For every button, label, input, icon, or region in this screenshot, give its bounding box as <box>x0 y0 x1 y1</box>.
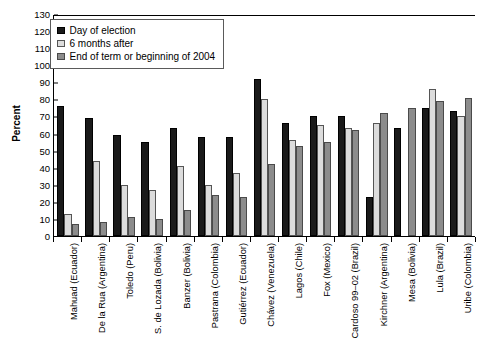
x-tick-mark <box>194 237 195 242</box>
x-tick-mark <box>362 237 363 242</box>
x-label-slot: Chávez (Venezuela) <box>250 243 278 361</box>
x-tick-label: Uribe (Colombia) <box>464 243 473 313</box>
x-label-slot: Cardoso 99–02 (Brazil) <box>334 243 362 361</box>
legend-item-end-of-term: End of term or beginning of 2004 <box>57 50 215 63</box>
bar <box>233 173 240 236</box>
bar-group <box>419 15 447 236</box>
bar <box>205 185 212 236</box>
x-tick-label: Mahuad (Ecuador) <box>70 243 79 320</box>
bar-group <box>222 15 250 236</box>
bar-group <box>279 15 307 236</box>
bar <box>261 99 268 236</box>
x-tick-mark <box>306 237 307 242</box>
bar <box>282 123 289 236</box>
y-tick-label: 130 <box>34 10 50 20</box>
x-tick-mark <box>334 237 335 242</box>
bar-group <box>250 15 278 236</box>
y-tick-label: 50 <box>39 147 50 157</box>
bar <box>128 217 135 236</box>
bar <box>177 166 184 236</box>
bar <box>121 185 128 236</box>
bar <box>317 125 324 236</box>
bar <box>100 222 107 236</box>
legend-label: Day of election <box>70 26 136 36</box>
x-tick-mark <box>250 237 251 242</box>
y-tick-label: 100 <box>34 61 50 71</box>
bar <box>408 108 415 236</box>
x-tick-label: Lula (Brazil) <box>436 243 445 293</box>
bar <box>465 98 472 236</box>
legend-swatch-icon <box>57 40 65 48</box>
legend-label: End of term or beginning of 2004 <box>70 52 216 62</box>
bar <box>352 130 359 236</box>
bar <box>226 137 233 236</box>
bar-group <box>391 15 419 236</box>
bar <box>429 89 436 236</box>
bar <box>156 219 163 236</box>
legend-item-day-of-election: Day of election <box>57 24 215 37</box>
y-tick-label: 0 <box>45 232 50 242</box>
x-tick-mark <box>419 237 420 242</box>
x-label-slot: Pastrana (Colombia) <box>194 243 222 361</box>
bar <box>296 146 303 237</box>
x-label-slot: Mahuad (Ecuador) <box>53 243 81 361</box>
legend-swatch-icon <box>57 27 65 35</box>
x-tick-mark <box>391 237 392 242</box>
bar <box>198 137 205 236</box>
y-tick-label: 30 <box>39 181 50 191</box>
x-tick-label: Banzer (Bolivia) <box>183 243 192 309</box>
legend-label: 6 months after <box>70 39 134 49</box>
x-tick-label: Lagos (Chile) <box>296 243 305 298</box>
x-label-slot: Uribe (Colombia) <box>447 243 475 361</box>
bar <box>324 142 331 236</box>
y-tick-label: 60 <box>39 130 50 140</box>
x-tick-label: Chávez (Venezuela) <box>267 243 276 327</box>
bar <box>141 142 148 236</box>
x-tick-mark <box>166 237 167 242</box>
x-label-slot: Lagos (Chile) <box>278 243 306 361</box>
x-tick-mark <box>475 237 476 242</box>
x-axis-ticks <box>53 237 475 242</box>
x-tick-label: Cardoso 99–02 (Brazil) <box>352 243 361 339</box>
bar <box>394 128 401 236</box>
y-axis-title: Percent <box>11 84 22 164</box>
x-tick-mark <box>278 237 279 242</box>
x-label-slot: Fox (Mexico) <box>306 243 334 361</box>
bar <box>85 118 92 236</box>
x-label-slot: De la Rua (Argentina) <box>81 243 109 361</box>
bar <box>422 108 429 236</box>
x-label-slot: Toledo (Peru) <box>109 243 137 361</box>
bar <box>436 101 443 236</box>
x-tick-label: Pastrana (Colombia) <box>211 243 220 328</box>
bar-group <box>363 15 391 236</box>
bar <box>184 210 191 236</box>
bar <box>268 164 275 236</box>
x-label-slot: Gutiérrez (Ecuador) <box>222 243 250 361</box>
x-tick-label: Toledo (Peru) <box>127 243 136 299</box>
x-tick-mark <box>81 237 82 242</box>
bar <box>289 140 296 236</box>
x-tick-label: Mesa (Bolivia) <box>408 243 417 302</box>
bar <box>380 113 387 236</box>
x-tick-label: S. de Lozada (Bolivia) <box>155 243 164 334</box>
bar <box>373 123 380 236</box>
x-tick-mark <box>109 237 110 242</box>
bar <box>170 128 177 236</box>
x-tick-mark <box>137 237 138 242</box>
bar <box>57 106 64 236</box>
chart-legend: Day of election 6 months after End of te… <box>50 19 224 69</box>
bar-group <box>335 15 363 236</box>
x-tick-label: Kirchner (Argentina) <box>380 243 389 326</box>
y-tick-label: 90 <box>39 79 50 89</box>
bar <box>93 161 100 236</box>
y-tick-label: 110 <box>35 44 50 54</box>
x-tick-mark <box>222 237 223 242</box>
x-label-slot: Kirchner (Argentina) <box>363 243 391 361</box>
bar <box>72 224 79 236</box>
y-tick-label: 120 <box>34 27 50 37</box>
legend-item-6-months-after: 6 months after <box>57 37 215 50</box>
y-tick-label: 80 <box>39 96 50 106</box>
x-label-slot: S. de Lozada (Bolivia) <box>137 243 165 361</box>
bar <box>254 79 261 236</box>
bar <box>450 111 457 236</box>
